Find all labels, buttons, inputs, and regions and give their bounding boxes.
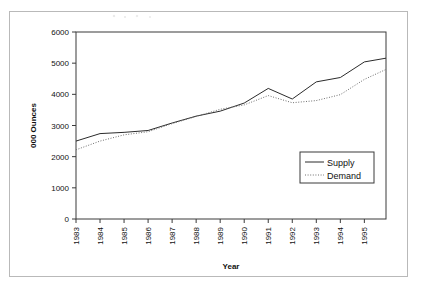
x-axis-tick-label: 1988: [192, 226, 201, 244]
y-axis-tick-label: 3000: [51, 122, 69, 131]
x-axis-tick-label: 1995: [360, 226, 369, 244]
y-axis-tick-label: 6000: [51, 28, 69, 37]
y-axis-tick-label: 0: [65, 215, 70, 224]
y-axis-tick-label: 4000: [51, 90, 69, 99]
plot-area-border: [76, 32, 386, 219]
x-axis-tick-label: 1993: [312, 226, 321, 244]
legend-label-demand: Demand: [327, 171, 361, 181]
y-axis-tick-label: 2000: [51, 153, 69, 162]
x-axis-tick-label: 1989: [216, 226, 225, 244]
y-axis-tick-label: 5000: [51, 59, 69, 68]
x-axis-tick-label: 1994: [336, 226, 345, 244]
x-axis-tick-label: 1985: [120, 226, 129, 244]
legend-label-supply: Supply: [327, 158, 355, 168]
x-axis-tick-label: 1984: [96, 226, 105, 244]
x-axis-tick-label: 1986: [144, 226, 153, 244]
x-axis-tick-label: 1991: [264, 226, 273, 244]
x-axis-tick-label: 1990: [240, 226, 249, 244]
x-axis-tick-label: 1992: [288, 226, 297, 244]
chart-figure-frame: 0100020003000400050006000198319841985198…: [9, 11, 408, 277]
y-axis-title: 000 Ounces: [29, 102, 38, 147]
series-line-demand: [76, 69, 386, 149]
series-line-supply: [76, 58, 386, 141]
x-axis-title: Year: [223, 262, 240, 271]
x-axis-tick-label: 1983: [72, 226, 81, 244]
x-axis-tick-label: 1987: [168, 226, 177, 244]
y-axis-tick-label: 1000: [51, 184, 69, 193]
line-chart: 0100020003000400050006000198319841985198…: [10, 12, 409, 278]
